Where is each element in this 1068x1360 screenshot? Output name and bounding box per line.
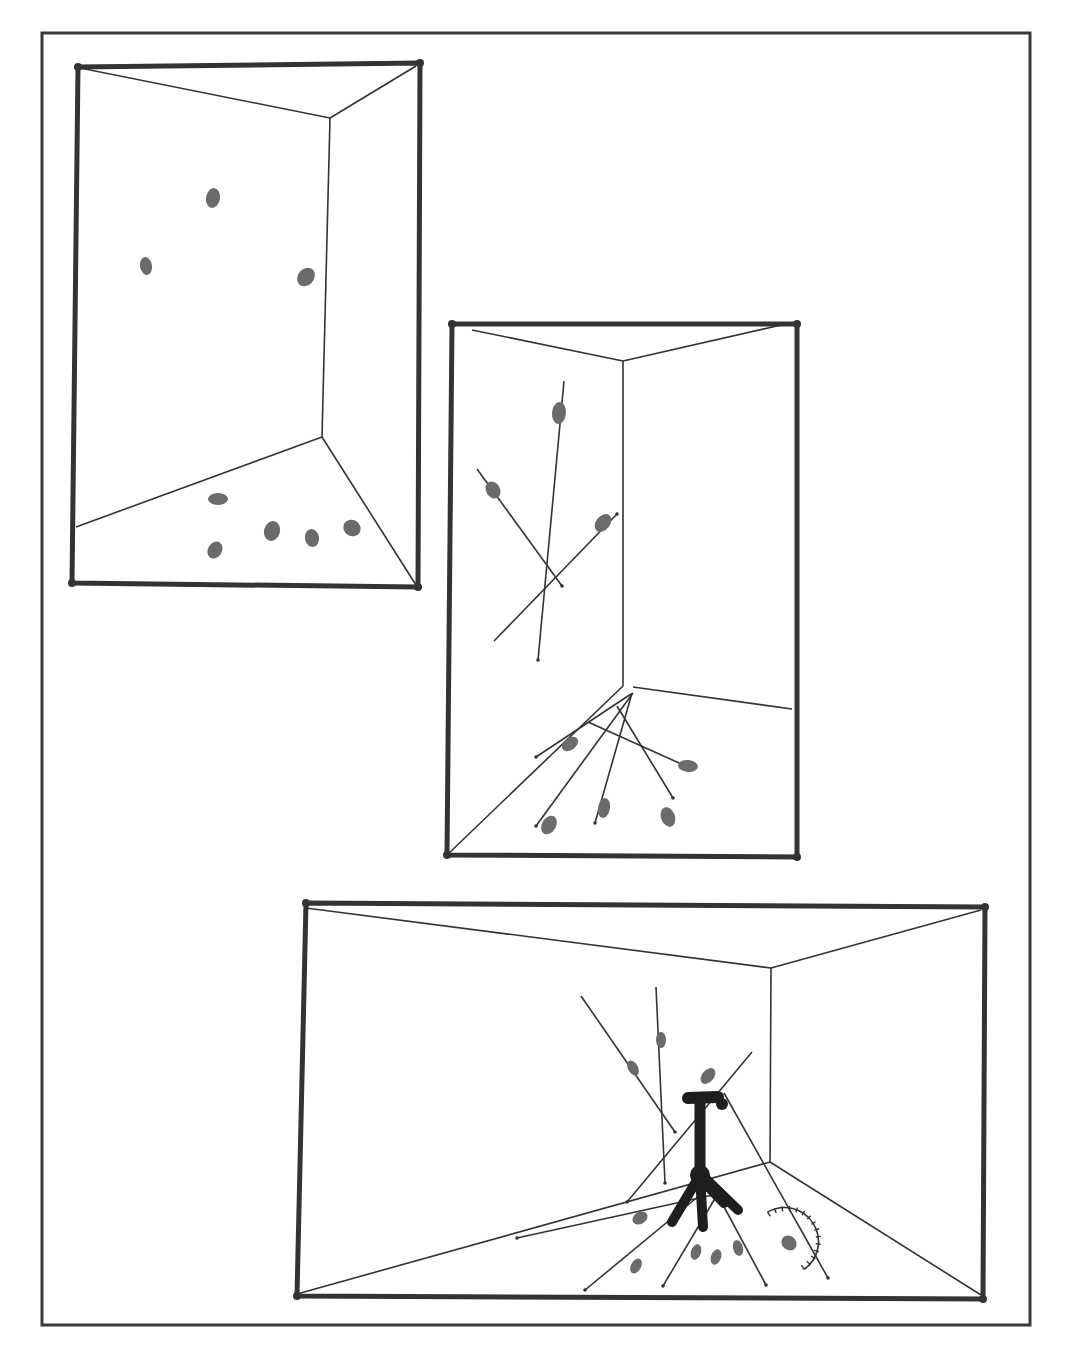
particle-blob [293, 264, 318, 290]
rod-endpoint [593, 821, 597, 825]
trajectory-rod [494, 514, 617, 641]
panel-3 [293, 899, 989, 1303]
particle-blob [204, 187, 221, 209]
particle-blob [689, 1243, 704, 1261]
rod-endpoint [663, 1181, 667, 1185]
rod-endpoint [583, 1288, 587, 1292]
outer-border [42, 33, 1030, 1325]
room-edge [76, 437, 322, 527]
particle-blob [656, 1032, 666, 1048]
room-edge [306, 908, 771, 968]
frame-corner-dot [981, 903, 989, 911]
room-edge [633, 687, 792, 709]
rod-endpoint [826, 1276, 830, 1280]
trajectory-rod [617, 706, 673, 798]
rod-endpoint [534, 755, 538, 759]
rod-endpoint [673, 1130, 677, 1134]
room-edge [770, 1162, 981, 1295]
frame-corner-dot [793, 320, 801, 328]
frame-corner-dot [68, 579, 76, 587]
rod-endpoint [671, 796, 675, 800]
trajectory-rod [656, 987, 665, 1183]
room-edge [322, 118, 330, 437]
trajectory-rod [536, 693, 633, 826]
particle-blob [778, 1232, 799, 1253]
frame-corner-dot [793, 853, 801, 861]
rod-endpoint [536, 658, 540, 662]
tripod [672, 1097, 738, 1227]
particle-blob [262, 519, 283, 542]
room-edge [330, 66, 416, 118]
trajectory-rod [627, 1052, 752, 1202]
rod-endpoint [625, 1200, 629, 1204]
rod-endpoint [661, 1284, 665, 1288]
frame-corner-dot [74, 63, 82, 71]
rod-endpoint [560, 584, 564, 588]
room-edge [322, 437, 416, 585]
gauge-tick [796, 1208, 798, 1213]
particle-blob [591, 511, 615, 535]
particle-blob [340, 517, 364, 540]
room-edge [80, 68, 330, 118]
room-edge [770, 968, 771, 1162]
particle-blob [709, 1248, 724, 1266]
panel-frame [297, 903, 985, 1299]
particle-blob [678, 759, 699, 773]
rod-endpoint [534, 824, 538, 828]
room-edge [771, 910, 981, 968]
particle-blob [596, 797, 611, 819]
room-edge [472, 330, 623, 361]
room-edge [447, 686, 623, 855]
trajectory-rod [588, 722, 688, 767]
gauge-tick [807, 1261, 810, 1265]
particle-blob [658, 805, 678, 829]
panel-2 [443, 320, 801, 861]
frame-corner-dot [416, 59, 424, 67]
particle-blob [698, 1065, 719, 1087]
gauge-tick [814, 1229, 819, 1231]
rod-endpoint [615, 512, 619, 516]
panel-frame [447, 324, 797, 857]
frame-corner-dot [979, 1295, 987, 1303]
gauge-tick [816, 1236, 821, 1237]
particle-blob [208, 493, 228, 505]
frame-corner-dot [448, 320, 456, 328]
gauge-tick [802, 1265, 805, 1269]
rod-endpoint [515, 1236, 519, 1240]
panels-group [68, 59, 989, 1303]
particle-blob [204, 539, 225, 562]
room-edge [623, 323, 790, 361]
tripod-knob [716, 1098, 728, 1110]
protractor-gauge [767, 1206, 820, 1269]
gauge-tick [782, 1206, 783, 1211]
gauge-tick [816, 1244, 821, 1245]
particle-blob [139, 256, 154, 276]
panel-1 [68, 59, 424, 591]
particle-blob [538, 813, 560, 837]
rod-endpoint [764, 1283, 768, 1287]
particle-blob [304, 528, 321, 548]
diagram-canvas [0, 0, 1068, 1360]
particle-blob [551, 401, 567, 424]
gauge-tick [767, 1212, 770, 1216]
frame-corner-dot [302, 899, 310, 907]
particle-blob [628, 1257, 645, 1276]
sketch-svg [0, 0, 1068, 1360]
